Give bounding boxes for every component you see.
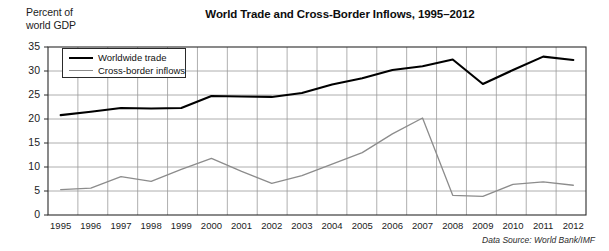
legend-entry-cross-border-inflows: Cross-border inflows bbox=[67, 64, 185, 77]
plot-area bbox=[0, 0, 609, 251]
y-axis-tick-label: 30 bbox=[14, 64, 40, 76]
chart-legend: Worldwide trade Cross-border inflows bbox=[62, 48, 186, 78]
y-axis-tick-label: 5 bbox=[14, 184, 40, 196]
legend-label: Cross-border inflows bbox=[98, 65, 185, 76]
y-axis-tick-label: 20 bbox=[14, 112, 40, 124]
y-axis-tick-label: 10 bbox=[14, 160, 40, 172]
y-axis-tick-label: 25 bbox=[14, 88, 40, 100]
chart-figure: Percent of world GDP World Trade and Cro… bbox=[0, 0, 609, 251]
legend-label: Worldwide trade bbox=[98, 52, 166, 63]
y-axis-tick-label: 15 bbox=[14, 136, 40, 148]
source-note: Data Source: World Bank/IMF bbox=[482, 235, 595, 245]
x-axis-tick-label: 2012 bbox=[553, 220, 593, 231]
legend-line-swatch-icon bbox=[69, 70, 93, 71]
legend-entry-worldwide-trade: Worldwide trade bbox=[67, 51, 166, 64]
y-axis-tick-label: 0 bbox=[14, 208, 40, 220]
y-axis-tick-label: 35 bbox=[14, 40, 40, 52]
legend-line-swatch-icon bbox=[69, 57, 93, 59]
